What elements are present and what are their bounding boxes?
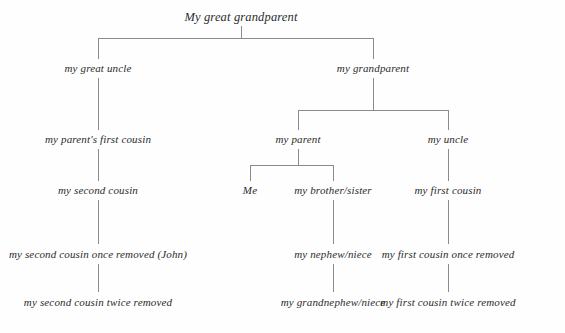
node-parents-first-cousin: my parent's first cousin <box>45 134 151 145</box>
edge-parent-stub <box>298 149 299 165</box>
node-parent: my parent <box>275 134 320 145</box>
node-great-uncle: my great uncle <box>64 63 131 74</box>
node-second-cousin-twice-removed: my second cousin twice removed <box>24 297 172 308</box>
edge-once-removed-to-twice-removed-second <box>98 264 99 292</box>
edge-to-me <box>250 165 251 181</box>
edge-once-removed-to-twice-removed-first <box>448 264 449 292</box>
edge-first-cousin-to-once-removed <box>448 200 449 244</box>
node-first-cousin: my first cousin <box>414 185 481 196</box>
node-me: Me <box>243 185 257 196</box>
edge-brother-sister-to-nephew-niece <box>333 200 334 244</box>
edge-uncle-to-first-cousin <box>448 149 449 181</box>
node-first-cousin-once-removed: my first cousin once removed <box>382 249 515 260</box>
edge-parents-first-cousin-to-second-cousin <box>98 149 99 181</box>
edge-great-uncle-to-parents-first-cousin <box>98 78 99 130</box>
edge-nephew-to-grandnephew <box>333 264 334 292</box>
node-brother-sister: my brother/sister <box>294 185 372 196</box>
node-second-cousin-once-removed: my second cousin once removed (John) <box>9 249 187 260</box>
edge-to-great-uncle <box>98 38 99 59</box>
edge-generation2-bar <box>298 110 449 111</box>
node-second-cousin: my second cousin <box>58 185 138 196</box>
node-grandnephew-niece: my grandnephew/niece <box>281 297 386 308</box>
edge-to-uncle <box>448 110 449 130</box>
family-tree-diagram: My great grandparent my great uncle my g… <box>0 0 565 333</box>
edge-second-cousin-to-once-removed <box>98 200 99 244</box>
edge-to-grandparent <box>373 38 374 59</box>
edge-generation3-bar <box>250 165 334 166</box>
edge-to-brother-sister <box>333 165 334 181</box>
edge-grandparent-stub <box>373 78 374 110</box>
edge-to-parent <box>298 110 299 130</box>
node-nephew-niece: my nephew/niece <box>294 249 372 260</box>
node-grandparent: my grandparent <box>337 63 409 74</box>
edge-generation1-bar <box>98 38 374 39</box>
node-first-cousin-twice-removed: my first cousin twice removed <box>380 297 515 308</box>
node-great-grandparent: My great grandparent <box>184 11 297 24</box>
edge-root-stub <box>241 26 242 38</box>
node-uncle: my uncle <box>428 134 469 145</box>
